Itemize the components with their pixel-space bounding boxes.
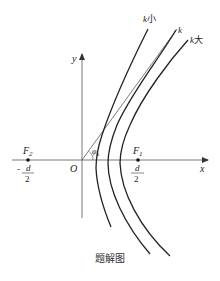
curve-k — [108, 30, 176, 254]
focus-f2-sign: - — [17, 164, 20, 174]
focus-f1-num: d — [135, 163, 140, 173]
focus-f1-den: 2 — [134, 174, 139, 184]
curve-k-small — [96, 29, 148, 227]
curve-k-large-label: k大 — [190, 34, 203, 45]
asymptote-line — [82, 29, 177, 160]
focus-f2-den: 2 — [25, 174, 30, 184]
y-axis-label: y — [71, 53, 77, 64]
origin-label: O — [70, 163, 77, 174]
curve-k-large — [120, 40, 188, 256]
figure-caption: 题解图 — [95, 252, 125, 264]
focus-f2-label: F2 — [22, 145, 33, 158]
curve-k-label: k — [178, 25, 183, 35]
curve-k-small-label: k小 — [143, 14, 156, 24]
x-axis-label: x — [199, 163, 205, 174]
focus-f2-dot — [26, 158, 30, 162]
focus-f1-label: F1 — [132, 145, 143, 158]
focus-f2-num: d — [26, 163, 31, 173]
hyperbola-diagram: y x O F2 - d 2 F1 d 2 φk k小 k k大 题解图 — [0, 0, 220, 281]
focus-f1-dot — [136, 158, 140, 162]
